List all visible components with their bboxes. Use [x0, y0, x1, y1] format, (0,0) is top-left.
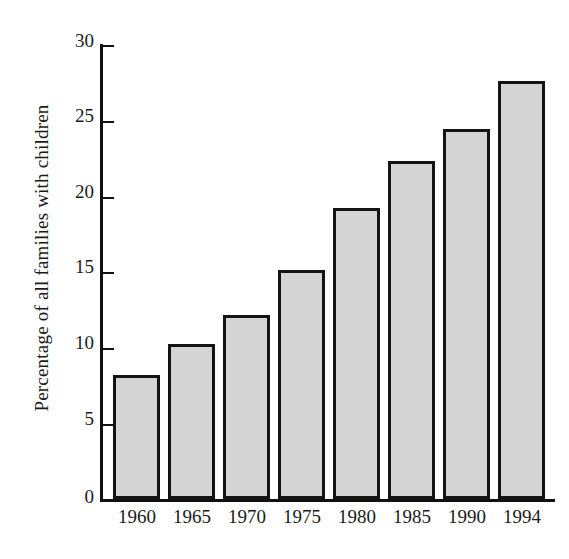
bar-1970	[223, 315, 270, 499]
bars-layer	[100, 40, 555, 502]
bar-1965	[168, 344, 215, 499]
bar-1994	[498, 81, 545, 499]
x-tick-label-1994: 1994	[482, 506, 562, 529]
bar-1975	[278, 270, 325, 500]
y-tick-label-0: 0	[54, 487, 94, 506]
y-tick-label-5: 5	[54, 409, 94, 428]
bar-1980	[333, 208, 380, 499]
x-axis-tick-labels: 1960 1965 1970 1975 1980 1985 1990 1994	[100, 506, 555, 540]
y-tick-label-15: 15	[54, 257, 94, 276]
y-tick-label-25: 25	[54, 106, 94, 125]
y-tick-label-30: 30	[54, 31, 94, 50]
bar-1985	[388, 161, 435, 499]
y-tick-label-20: 20	[54, 182, 94, 201]
bar-1990	[443, 129, 490, 499]
bar-1960	[113, 375, 160, 499]
y-axis-tick-labels: 30 25 20 15 10 5 0	[52, 40, 94, 502]
bar-chart-figure: Percentage of all families with children…	[0, 0, 569, 559]
y-tick-label-10: 10	[54, 333, 94, 352]
plot-area	[100, 40, 555, 502]
